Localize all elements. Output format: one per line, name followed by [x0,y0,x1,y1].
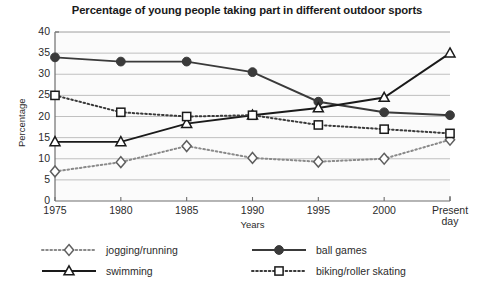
x-tick-label: 1990 [223,205,283,216]
y-tick-label: 20 [28,110,50,122]
y-tick-label: 40 [28,25,50,37]
y-tick-label: 15 [28,131,50,143]
data-point-marker [380,108,389,117]
chart-legend: jogging/runningball gamesswimmingbiking/… [40,240,460,286]
data-point-marker [275,267,283,275]
legend-item[interactable]: jogging/running [40,240,178,260]
data-point-marker [248,111,256,119]
legend-marker-icon [40,242,98,258]
data-point-marker [51,53,60,62]
legend-item[interactable]: biking/roller skating [250,261,406,281]
legend-marker-icon [250,242,308,258]
y-tick-label: 30 [28,67,50,79]
data-point-marker [314,121,322,129]
data-point-marker [446,111,455,120]
x-tick-label: 1985 [157,205,217,216]
x-tick-label: Presentday [420,205,480,227]
chart-container: Percentage of young people taking part i… [0,0,494,288]
x-tick-label: 1995 [288,205,348,216]
data-point-marker [446,129,454,137]
legend-label: swimming [106,265,153,277]
x-tick-label: 1980 [91,205,151,216]
data-point-marker [117,108,125,116]
y-axis-label: Percentage [16,98,27,147]
y-tick-label: 5 [28,173,50,185]
data-point-marker [275,246,284,255]
y-tick-label: 10 [28,152,50,164]
chart-title: Percentage of young people taking part i… [0,4,494,16]
legend-item[interactable]: ball games [250,240,367,260]
y-tick-label: 35 [28,46,50,58]
data-point-marker [248,68,257,77]
x-tick-label: 2000 [354,205,414,216]
x-tick-label: 1975 [25,205,85,216]
data-point-marker [64,245,73,256]
data-point-marker [182,57,191,66]
data-point-marker [380,125,388,133]
legend-item[interactable]: swimming [40,261,153,281]
data-point-marker [116,57,125,66]
data-point-marker [183,112,191,120]
legend-label: biking/roller skating [316,265,406,277]
data-point-marker [51,91,59,99]
legend-marker-icon [250,263,308,279]
legend-label: ball games [316,244,367,256]
legend-marker-icon [40,263,98,279]
legend-label: jogging/running [106,244,178,256]
y-tick-label: 25 [28,88,50,100]
x-axis-label: Years [223,219,283,230]
